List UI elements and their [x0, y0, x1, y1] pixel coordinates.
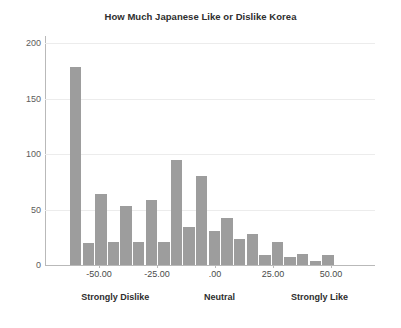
histogram-chart: How Much Japanese Like or Dislike Korea … [0, 0, 401, 328]
x-axis-tick-mark [215, 265, 216, 268]
bar-series [70, 30, 360, 265]
y-axis-tick-label: 200 [5, 38, 41, 48]
x-axis-tick-mark [331, 265, 332, 268]
bar [234, 239, 245, 265]
x-axis-tick-label: 25.00 [262, 269, 285, 279]
bar [120, 206, 131, 265]
category-annotation: Neutral [204, 292, 235, 302]
y-axis-tick-label: 150 [5, 94, 41, 104]
x-axis-tick-label: -50.00 [86, 269, 112, 279]
bar [83, 243, 94, 265]
bar [171, 160, 182, 265]
bar [322, 255, 333, 265]
bar [95, 194, 106, 265]
y-axis-tick-labels: 050100150200 [0, 0, 41, 328]
bar [284, 257, 295, 265]
x-axis-tick-label: 50.00 [320, 269, 343, 279]
category-annotation: Strongly Like [291, 292, 348, 302]
bar [297, 254, 308, 265]
bar [221, 218, 232, 265]
x-axis-line [45, 265, 375, 266]
x-axis-tick-mark [157, 265, 158, 268]
bar [133, 242, 144, 265]
x-axis-tick-label: .00 [209, 269, 222, 279]
bar [247, 234, 258, 265]
bar [196, 176, 207, 265]
x-axis-tick-mark [273, 265, 274, 268]
chart-title: How Much Japanese Like or Dislike Korea [0, 11, 401, 22]
bar [146, 200, 157, 265]
x-axis-tick-mark [99, 265, 100, 268]
bar [183, 227, 194, 265]
bar [259, 255, 270, 265]
bar [108, 242, 119, 265]
x-axis-tick-label: -25.00 [144, 269, 170, 279]
bar [158, 242, 169, 265]
bar [70, 67, 81, 265]
bar [272, 242, 283, 265]
bar [209, 231, 220, 265]
y-axis-tick-label: 50 [5, 205, 41, 215]
category-annotation: Strongly Dislike [81, 292, 149, 302]
y-axis-tick-label: 100 [5, 149, 41, 159]
y-axis-tick-label: 0 [5, 260, 41, 270]
